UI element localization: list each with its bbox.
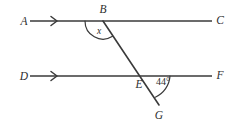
label-point-c: C [216,14,224,26]
label-point-b: B [99,3,106,15]
transversal-beg [103,21,159,105]
label-point-g: G [155,109,164,121]
geometry-diagram: A B C D E F G x 44° [0,0,236,124]
label-point-f: F [215,69,224,81]
label-point-d: D [19,70,29,82]
label-point-a: A [19,15,28,27]
geometry-figure-svg: A B C D E F G x 44° [0,0,236,124]
label-angle-x: x [96,26,102,36]
label-angle-44: 44° [156,76,170,87]
label-point-e: E [134,78,142,90]
